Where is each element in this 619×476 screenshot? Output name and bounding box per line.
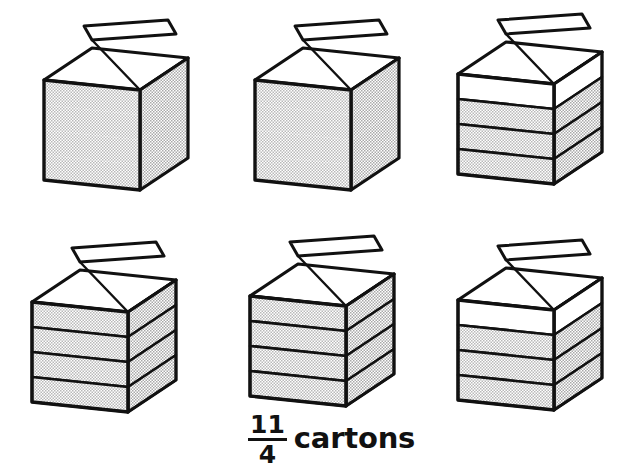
- carton-spout: [295, 20, 387, 40]
- carton-spout: [84, 20, 176, 40]
- carton-3: [450, 12, 610, 202]
- carton-front-face: [458, 74, 554, 184]
- carton-front-face: [32, 302, 128, 412]
- carton-front-face: [44, 80, 140, 190]
- carton-6: [450, 238, 610, 428]
- carton-spout: [290, 236, 382, 256]
- carton-spout: [498, 14, 590, 34]
- carton-spout: [72, 242, 164, 262]
- carton-4: [24, 240, 184, 430]
- carton-1: [36, 18, 196, 208]
- carton-spout: [498, 240, 590, 260]
- carton-front-face: [255, 80, 351, 190]
- caption-unit-label: cartons: [294, 421, 415, 455]
- illustration-canvas: 11 4 cartons: [0, 0, 619, 476]
- fraction-denominator: 4: [257, 441, 278, 467]
- carton-front-face: [458, 300, 554, 410]
- carton-front-face: [250, 296, 346, 406]
- carton-5: [242, 234, 402, 424]
- carton-2: [247, 18, 407, 208]
